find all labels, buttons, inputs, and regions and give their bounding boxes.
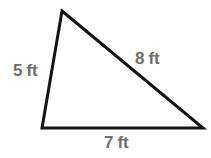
side-label-hypotenuse: 8 ft [135,50,159,67]
geometry-figure: 5 ft 8 ft 7 ft [0,0,211,158]
side-label-base: 7 ft [104,134,128,151]
triangle-outline [42,11,203,128]
side-label-left: 5 ft [13,62,37,79]
